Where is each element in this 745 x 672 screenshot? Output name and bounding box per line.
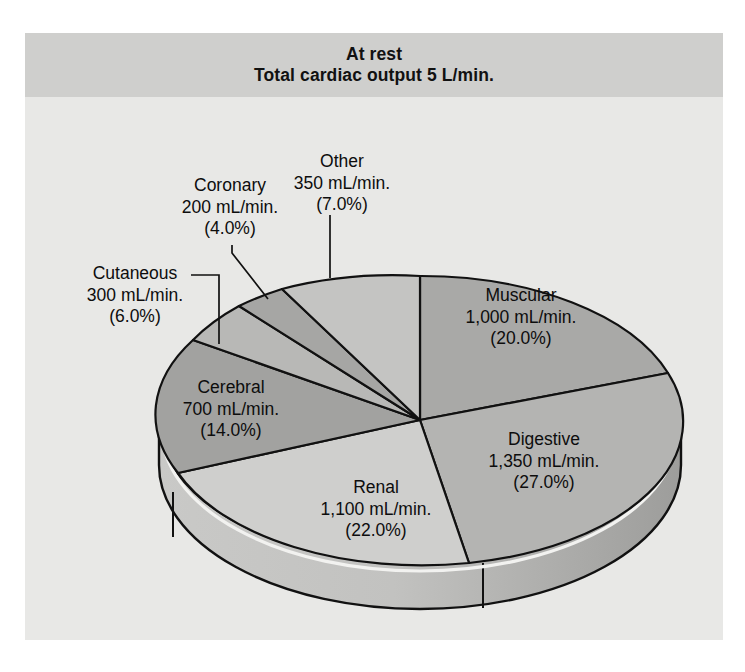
slice-label-digestive-value: 1,350 mL/min.	[439, 451, 649, 473]
slice-label-cutaneous-name: Cutaneous	[35, 263, 235, 285]
slice-label-cerebral: Cerebral 700 mL/min. (14.0%)	[141, 377, 321, 442]
slice-label-cerebral-name: Cerebral	[141, 377, 321, 399]
slice-label-coronary: Coronary 200 mL/min. (4.0%)	[135, 175, 325, 240]
slice-label-renal-value: 1,100 mL/min.	[281, 499, 471, 521]
slice-label-muscular: Muscular 1,000 mL/min. (20.0%)	[421, 285, 621, 350]
slice-label-coronary-percent: (4.0%)	[135, 218, 325, 240]
slice-label-muscular-name: Muscular	[421, 285, 621, 307]
slice-label-cutaneous-percent: (6.0%)	[35, 306, 235, 328]
slice-label-digestive-name: Digestive	[439, 429, 649, 451]
slice-label-cerebral-value: 700 mL/min.	[141, 399, 321, 421]
slice-label-cutaneous-value: 300 mL/min.	[35, 285, 235, 307]
slice-label-coronary-value: 200 mL/min.	[135, 197, 325, 219]
leader-line-coronary	[232, 245, 268, 299]
slice-label-muscular-value: 1,000 mL/min.	[421, 307, 621, 329]
figure-subtitle: Total cardiac output 5 L/min.	[254, 65, 494, 86]
slice-label-renal-percent: (22.0%)	[281, 520, 471, 542]
slice-label-digestive: Digestive 1,350 mL/min. (27.0%)	[439, 429, 649, 494]
figure-header: At rest Total cardiac output 5 L/min.	[25, 33, 723, 97]
slice-label-coronary-name: Coronary	[135, 175, 325, 197]
figure-panel: At rest Total cardiac output 5 L/min.	[25, 33, 723, 640]
slice-label-muscular-percent: (20.0%)	[421, 328, 621, 350]
slice-label-other-name: Other	[247, 151, 437, 173]
slice-label-digestive-percent: (27.0%)	[439, 472, 649, 494]
slice-label-cutaneous: Cutaneous 300 mL/min. (6.0%)	[35, 263, 235, 328]
figure-title: At rest	[346, 44, 402, 65]
slice-label-cerebral-percent: (14.0%)	[141, 420, 321, 442]
pie-chart-area: Other 350 mL/min. (7.0%) Coronary 200 mL…	[25, 97, 723, 640]
